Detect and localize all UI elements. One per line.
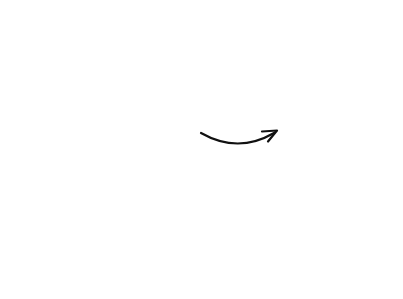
arrow-shaft <box>201 133 274 144</box>
curved-arrow-right-icon <box>0 0 403 299</box>
diagram-canvas <box>0 0 403 299</box>
